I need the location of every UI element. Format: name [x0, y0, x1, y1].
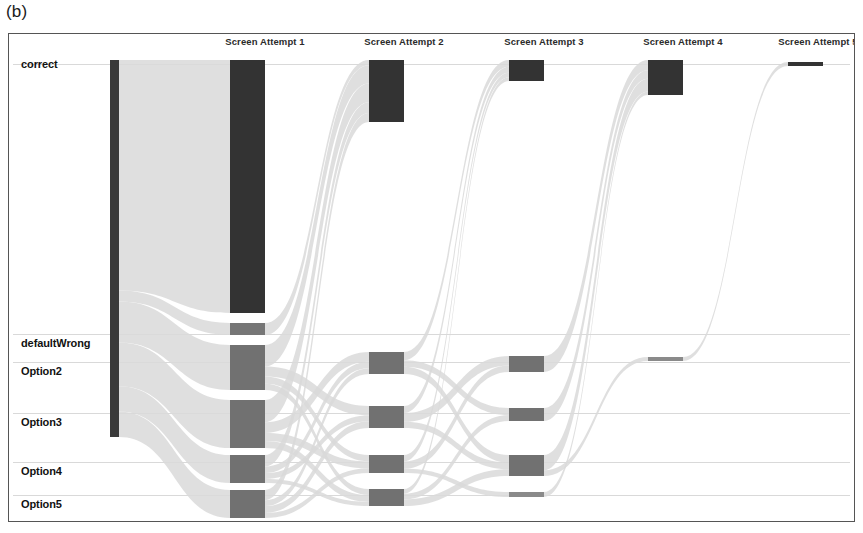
sankey-link[interactable] — [404, 77, 509, 493]
sankey-node-a1-option3[interactable] — [230, 400, 265, 448]
figure-root: (b) Screen Attempt 1Screen Attempt 2Scre… — [0, 0, 863, 533]
sankey-link[interactable] — [404, 60, 509, 360]
stage-header-3: Screen Attempt 3 — [504, 36, 583, 47]
panel-label: (b) — [6, 2, 27, 22]
sankey-link[interactable] — [119, 60, 230, 313]
sankey-diagram — [9, 34, 854, 521]
sankey-node-a3-option3[interactable] — [509, 408, 544, 421]
row-label-correct: correct — [21, 58, 58, 70]
sankey-node-a5-correct[interactable] — [788, 62, 823, 66]
row-label-option2: Option2 — [21, 365, 62, 377]
sankey-node-a2-option4[interactable] — [369, 455, 404, 473]
row-label-option3: Option3 — [21, 416, 62, 428]
sankey-node-a2-correct[interactable] — [369, 60, 404, 122]
row-label-defaultwrong: defaultWrong — [21, 337, 90, 349]
row-label-option5: Option5 — [21, 498, 62, 510]
sankey-node-a1-option2[interactable] — [230, 345, 265, 390]
sankey-link[interactable] — [544, 70, 648, 421]
stage-header-4: Screen Attempt 4 — [643, 36, 722, 47]
sankey-link[interactable] — [544, 92, 648, 497]
sankey-node-a2-option2[interactable] — [369, 352, 404, 374]
sankey-chart-frame: Screen Attempt 1Screen Attempt 2Screen A… — [8, 33, 855, 522]
sankey-node-a1-defaultWrong[interactable] — [230, 323, 265, 335]
sankey-links-layer — [119, 60, 788, 518]
stage-header-1: Screen Attempt 1 — [225, 36, 304, 47]
stage-header-5: Screen Attempt 5 — [778, 36, 855, 47]
sankey-node-a1-correct[interactable] — [230, 60, 265, 313]
sankey-link[interactable] — [544, 79, 648, 471]
sankey-link[interactable] — [683, 62, 788, 361]
sankey-node-a3-option2[interactable] — [509, 356, 544, 372]
sankey-node-source[interactable] — [110, 60, 119, 437]
sankey-node-a3-option4[interactable] — [509, 455, 544, 476]
sankey-node-a4-option2[interactable] — [648, 357, 683, 361]
sankey-node-a2-option5[interactable] — [369, 489, 404, 506]
sankey-node-a1-option4[interactable] — [230, 455, 265, 483]
sankey-link[interactable] — [404, 73, 509, 462]
sankey-node-a1-option5[interactable] — [230, 490, 265, 518]
sankey-node-a2-option3[interactable] — [369, 406, 404, 428]
sankey-link[interactable] — [544, 357, 648, 476]
sankey-node-a3-correct[interactable] — [509, 60, 544, 81]
sankey-node-a4-correct[interactable] — [648, 60, 683, 95]
row-label-option4: Option4 — [21, 465, 62, 477]
sankey-node-a3-option5[interactable] — [509, 492, 544, 497]
stage-header-2: Screen Attempt 2 — [364, 36, 443, 47]
